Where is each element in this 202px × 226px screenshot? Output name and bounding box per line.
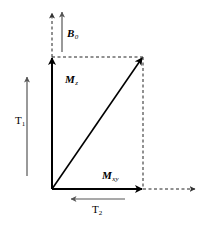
t2-label-main: T: [92, 203, 99, 215]
diagram-canvas: [0, 0, 202, 226]
t1-label-main: T: [15, 114, 22, 126]
b0-label-main: B: [67, 27, 74, 39]
mxy-label-main: M: [102, 169, 112, 181]
mz-label-main: M: [65, 73, 75, 85]
t1-label: T1: [15, 115, 25, 128]
mxy-label: Mxy: [102, 170, 119, 183]
mxy-label-sub: xy: [112, 175, 118, 183]
t1-label-sub: 1: [22, 120, 26, 128]
t2-label: T2: [92, 204, 102, 217]
mz-label-sub: z: [75, 79, 78, 87]
b0-label-sub: 0: [75, 33, 79, 41]
t2-label-sub: 2: [99, 209, 103, 217]
b0-label: B0: [67, 28, 78, 41]
magnetization-diagram: B0 Mz Mxy T1 T2: [0, 0, 202, 226]
mz-label: Mz: [65, 74, 78, 87]
